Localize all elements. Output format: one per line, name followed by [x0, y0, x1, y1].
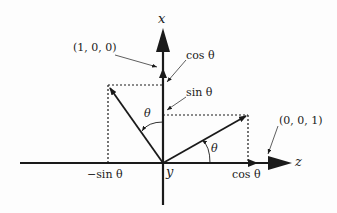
z-axis-arrowhead-icon [268, 156, 292, 170]
leader-z-unit [268, 126, 278, 154]
x-axis-label: x [158, 12, 165, 25]
z-axis-label: z [295, 155, 302, 168]
cos-theta-x-label: cos θ [186, 50, 215, 61]
theta-arc-left [142, 122, 163, 131]
y-axis-label: y [166, 165, 173, 178]
z-unit-point-label: (0, 0, 1) [279, 115, 323, 126]
z-unit-arrowhead-icon [248, 159, 258, 167]
diagram-graphics [0, 0, 337, 213]
rotated-x-vector [110, 88, 163, 163]
theta-right-label: θ [211, 143, 218, 154]
leader-x-unit [115, 55, 157, 67]
x-unit-point-label: (1, 0, 0) [73, 42, 117, 53]
rotated-z-vector [163, 116, 246, 163]
leader-sin-x [167, 97, 186, 110]
neg-sin-theta-z-label: −sin θ [87, 169, 123, 180]
projection-lines [108, 85, 248, 163]
x-axis-arrowhead-icon [156, 28, 170, 52]
x-unit-arrowhead-icon [159, 68, 167, 78]
rotation-diagram: x y z (1, 0, 0) (0, 0, 1) cos θ sin θ −s… [0, 0, 337, 213]
sin-theta-x-label: sin θ [186, 87, 212, 98]
cos-theta-z-label: cos θ [232, 169, 261, 180]
theta-left-label: θ [144, 108, 151, 119]
theta-arc-right [202, 140, 210, 163]
leader-cos-x [167, 60, 186, 82]
